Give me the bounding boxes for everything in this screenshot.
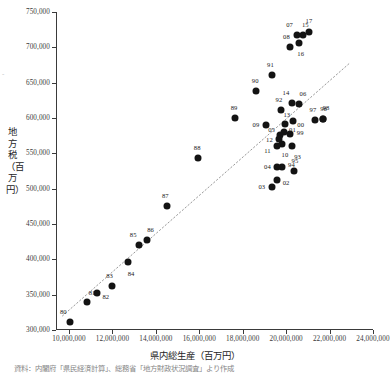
data-point[interactable]	[287, 43, 294, 50]
y-tick-mark	[52, 83, 56, 84]
data-point[interactable]	[232, 115, 239, 122]
x-tick-label: 22,000,000	[313, 335, 346, 343]
x-tick-label: 20,000,000	[269, 335, 302, 343]
y-axis-title: 地方税（百万円）	[6, 126, 18, 195]
y-tick-mark	[52, 259, 56, 260]
data-point-label: 13	[283, 110, 290, 117]
data-point-label: 03	[258, 183, 265, 190]
source-caption: 資料：内閣府「県民経済計算」、総務省「地方財政状況調査」より作成	[14, 362, 234, 373]
data-point-label: 87	[162, 192, 169, 199]
x-tick-mark	[243, 330, 244, 334]
x-tick-label: 16,000,000	[183, 335, 216, 343]
x-tick-mark	[156, 330, 157, 334]
y-tick-mark	[52, 118, 56, 119]
data-point[interactable]	[295, 40, 302, 47]
data-point-label: 00	[297, 120, 304, 127]
data-point[interactable]	[136, 242, 143, 249]
data-point-label: 88	[194, 144, 201, 151]
y-tick-mark	[52, 189, 56, 190]
data-point[interactable]	[268, 184, 275, 191]
trendline	[56, 12, 373, 330]
data-point-label: 89	[231, 104, 238, 111]
data-point[interactable]	[305, 29, 312, 36]
data-point[interactable]	[289, 117, 296, 124]
data-point-label: 11	[264, 146, 271, 153]
y-tick-label: 450,000	[26, 220, 50, 228]
data-point-label: 02	[283, 179, 290, 186]
data-point[interactable]	[143, 237, 150, 244]
x-tick-mark	[199, 330, 200, 334]
y-tick-mark	[52, 153, 56, 154]
data-point[interactable]	[67, 318, 74, 325]
x-tick-mark	[112, 330, 113, 334]
x-tick-label: 12,000,000	[96, 335, 129, 343]
data-point[interactable]	[274, 177, 281, 184]
data-point[interactable]	[125, 259, 132, 266]
data-point[interactable]	[276, 136, 283, 143]
y-tick-mark	[52, 224, 56, 225]
x-tick-mark	[330, 330, 331, 334]
data-point[interactable]	[288, 143, 295, 150]
data-point-label: 92	[276, 95, 283, 102]
data-point-label: 90	[252, 77, 259, 84]
data-point[interactable]	[290, 168, 297, 175]
plot-area: 300,000350,000400,000450,000500,000550,0…	[56, 12, 373, 330]
data-point[interactable]	[274, 142, 281, 149]
x-tick-mark	[286, 330, 287, 334]
data-point-label: 80	[60, 307, 67, 314]
data-point-label: 16	[297, 50, 304, 57]
y-tick-label: 600,000	[26, 114, 50, 122]
data-point[interactable]	[320, 116, 327, 123]
data-point-label: 99	[297, 128, 304, 135]
data-point[interactable]	[253, 88, 260, 95]
data-point-label: 01	[289, 126, 296, 133]
y-tick-mark	[52, 330, 56, 331]
data-point[interactable]	[281, 120, 288, 127]
y-tick-label: 550,000	[26, 149, 50, 157]
data-point[interactable]	[195, 155, 202, 162]
y-axis-stray-mark: -	[2, 70, 4, 78]
data-point[interactable]	[164, 203, 171, 210]
x-tick-mark	[69, 330, 70, 334]
data-point-label: 82	[102, 293, 109, 300]
data-point-label: 05	[268, 125, 275, 132]
y-tick-label: 400,000	[26, 255, 50, 263]
y-tick-mark	[52, 47, 56, 48]
y-tick-label: 500,000	[26, 185, 50, 193]
y-tick-label: 700,000	[26, 43, 50, 51]
data-point-label: 85	[130, 231, 137, 238]
x-tick-label: 24,000,000	[356, 335, 389, 343]
data-point-label: 09	[253, 121, 260, 128]
data-point[interactable]	[312, 117, 319, 124]
data-point[interactable]	[262, 122, 269, 129]
data-point-label: 07	[286, 20, 293, 27]
x-tick-label: 10,000,000	[52, 335, 85, 343]
data-point[interactable]	[289, 100, 296, 107]
data-point-label: 10	[282, 151, 289, 158]
data-point-label: 17	[306, 17, 313, 24]
x-tick-label: 18,000,000	[226, 335, 259, 343]
data-point[interactable]	[108, 283, 115, 290]
data-point-label: 91	[267, 60, 274, 67]
data-point-label: 08	[283, 32, 290, 39]
data-point[interactable]	[269, 71, 276, 78]
y-tick-label: 300,000	[26, 326, 50, 334]
y-tick-label: 650,000	[26, 79, 50, 87]
x-tick-mark	[373, 330, 374, 334]
data-point-label: 95	[292, 157, 299, 164]
y-tick-mark	[52, 295, 56, 296]
y-tick-label: 350,000	[26, 291, 50, 299]
data-point-label: 14	[283, 89, 290, 96]
data-point-label: 98	[323, 104, 330, 111]
data-point-label: 84	[128, 270, 135, 277]
x-axis-title: 県内総生産（百万円）	[0, 348, 389, 362]
data-point-label: 12	[266, 136, 273, 143]
data-point[interactable]	[93, 290, 100, 297]
x-tick-label: 14,000,000	[139, 335, 172, 343]
data-point[interactable]	[274, 163, 281, 170]
data-point[interactable]	[84, 298, 91, 305]
data-point-label: 86	[147, 226, 154, 233]
data-point[interactable]	[295, 100, 302, 107]
y-tick-mark	[52, 12, 56, 13]
